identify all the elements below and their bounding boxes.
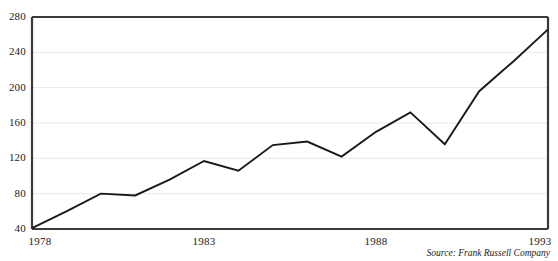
- y-tick-label: 240: [0, 45, 26, 57]
- y-tick-label: 160: [0, 116, 26, 128]
- y-tick-label: 80: [0, 187, 26, 199]
- x-tick-label: 1988: [356, 235, 396, 247]
- line-chart-figure: 4080120160200240280 1978198319881993 Sou…: [0, 0, 558, 261]
- x-tick-label: 1983: [184, 235, 224, 247]
- x-tick-label: 1978: [20, 235, 60, 247]
- y-tick-label: 280: [0, 10, 26, 22]
- y-tick-label: 120: [0, 151, 26, 163]
- source-note: Source: Frank Russell Company: [427, 248, 550, 258]
- data-series-line: [32, 29, 548, 228]
- y-tick-label: 200: [0, 81, 26, 93]
- plot-area: [0, 0, 558, 261]
- y-tick-label: 40: [0, 222, 26, 234]
- x-tick-label: 1993: [520, 235, 558, 247]
